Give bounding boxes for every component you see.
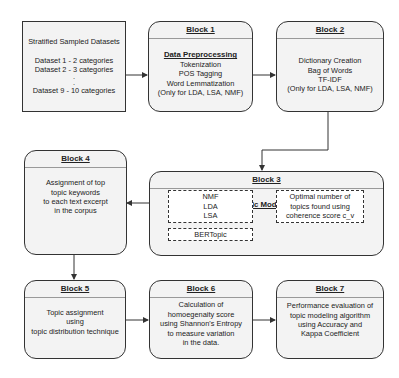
block-2-line: Dictionary Creation [299,56,362,65]
block-1: Block 1 Data Preprocessing Tokenization … [148,21,253,112]
block-5: Block 5 Topic assignment using topic dis… [24,280,126,359]
block-7-label: Block 7 [277,281,383,298]
input-title: Stratified Sampled Datasets [28,37,120,46]
block-2-line: Bag of Words [308,66,353,75]
model-lda: LDA [203,202,217,211]
optimal-line: coherence score c_v [286,211,354,220]
block-7-line: topic modeling algorithm [290,311,370,320]
block-6-line: using Shannon's Entropy [160,319,242,328]
block-4-line: to each text excerpt [43,197,108,206]
models-box: NMF LDA LSA [168,190,253,223]
block-6-line: Calculation of [179,300,224,309]
model-bertopic: BERTopic [194,230,226,239]
block-2: Block 2 Dictionary Creation Bag of Words… [276,21,384,112]
block-5-line: using [66,317,84,326]
block-4-line: Assignment of top [46,178,105,187]
block-4-line: topic keywords [51,188,100,197]
block-5-line: topic distribution technique [31,327,119,336]
block-1-label: Block 1 [149,22,252,39]
input-datasets-box: Stratified Sampled Datasets Dataset 1 - … [22,21,126,112]
block-1-line: Tokenization [180,60,221,69]
model-lsa: LSA [204,211,218,220]
block-2-label: Block 2 [277,22,383,39]
block-6-line: homoegenaity score [168,310,235,319]
block-1-line: (Only for LDA, LSA, NMF) [158,88,243,97]
block-7-line: Performance evaluation of [287,301,373,310]
block-6-line: in the data. [183,338,220,347]
block-4-label: Block 4 [25,151,126,168]
block-7-line: Kappa Coefficient [301,329,359,338]
block-2-line: TF-IDF [318,75,341,84]
bertopic-box: BERTopic [168,228,253,241]
input-line: Dataset 9 - 10 categories [33,86,116,95]
block-6: Block 6 Calculation of homoegenaity scor… [149,280,253,359]
block-4: Block 4 Assignment of top topic keywords… [24,150,127,255]
block-6-line: to measure variation [168,329,235,338]
block-5-line: Topic assignment [46,308,103,317]
block-7: Block 7 Performance evaluation of topic … [276,280,384,359]
block-1-line: Word Lemmatization [167,79,235,88]
block-7-line: using Accuracy and [298,320,362,329]
optimal-topics-box: Optimal number of topics found using coh… [276,190,364,223]
block-1-line: POS Tagging [179,69,222,78]
block-5-label: Block 5 [25,281,125,298]
optimal-line: Optimal number of [290,192,351,201]
block-6-label: Block 6 [150,281,252,298]
model-nmf: NMF [202,192,218,201]
input-line: Dataset 1 - 2 categories [35,56,113,65]
block-1-subtitle: Data Preprocessing [164,50,237,59]
optimal-line: topics found using [290,202,350,211]
block-3-label: Block 3 [150,172,383,189]
block-4-line: in the corpus [54,206,96,215]
block-2-line: (Only for LDA, LSA, NMF) [287,84,372,93]
